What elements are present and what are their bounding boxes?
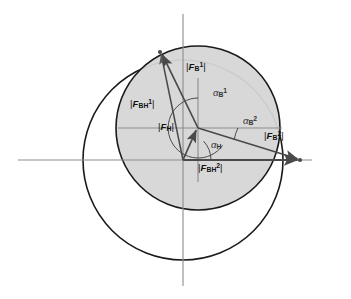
label-alpha-b2: αB2 bbox=[243, 116, 257, 127]
label-f-h: |FH| bbox=[158, 122, 174, 133]
label-f-bh1: |FBH1| bbox=[130, 99, 155, 110]
label-alpha-h: αH bbox=[211, 140, 221, 151]
vector-diagram-svg bbox=[0, 0, 351, 299]
endpoint-dot-upper-left bbox=[158, 50, 162, 54]
endpoint-dot-right bbox=[298, 158, 302, 162]
label-f-b2: |FB2| bbox=[264, 131, 284, 142]
label-f-b1: |FB1| bbox=[186, 62, 206, 73]
label-alpha-b1: αB1 bbox=[213, 88, 227, 99]
figure-canvas: |FB1| |FBH1| |FH| |FB2| |FBH2| αH αB1 αB… bbox=[0, 0, 351, 299]
label-f-bh2: |FBH2| bbox=[198, 163, 223, 174]
